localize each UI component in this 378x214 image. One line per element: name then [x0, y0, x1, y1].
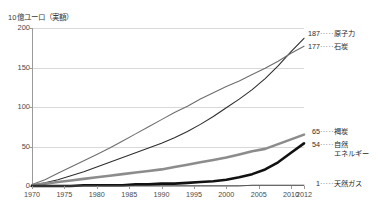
x-axis-tick-mark [194, 186, 195, 189]
y-axis-tick-label: 200 [4, 23, 30, 32]
series-line [32, 38, 304, 185]
leader-dots: ····· [320, 140, 334, 149]
x-axis-tick-mark [304, 186, 305, 189]
y-axis-tick-label: 150 [4, 63, 30, 72]
x-axis-tick-label: 2005 [251, 190, 267, 199]
series-callout: 1·····天然ガス [307, 179, 362, 188]
series-callout: 187·····原子力 [307, 29, 355, 38]
series-end-value: 187 [307, 29, 320, 38]
x-axis-tick-mark [129, 186, 130, 189]
y-axis-tick-label: 0 [4, 181, 30, 190]
x-axis-tick-label: 1975 [56, 190, 72, 199]
series-name-label: 褐炭 [334, 127, 348, 136]
x-axis-tick-mark [97, 186, 98, 189]
series-end-value: 54 [307, 140, 320, 149]
leader-dots: ····· [320, 42, 334, 51]
leader-dots: ····· [320, 179, 334, 188]
series-callout: 177·····石炭 [307, 42, 348, 51]
y-axis-tick: 200 [0, 23, 30, 33]
series-name-label: 自然エネルギー [334, 140, 369, 158]
series-end-value: 177 [307, 42, 320, 51]
x-axis-tick-mark [64, 186, 65, 189]
leader-dots: ····· [320, 127, 334, 136]
x-axis-tick-mark [162, 186, 163, 189]
series-callout: 65·····褐炭 [307, 127, 348, 136]
series-name-label: 石炭 [334, 42, 348, 51]
x-axis-tick-label: 1970 [24, 190, 40, 199]
series-name-label: 天然ガス [334, 179, 362, 188]
energy-subsidy-line-chart: 10億ユーロ（実額） 050100150200 1970197519801985… [0, 0, 378, 214]
x-axis-tick-mark [32, 186, 33, 189]
x-axis-tick-label: 2000 [218, 190, 234, 199]
x-axis-tick-label: 1980 [89, 190, 105, 199]
x-axis-tick-label: 1995 [186, 190, 202, 199]
x-axis-tick-mark [259, 186, 260, 189]
x-axis-tick-mark [291, 186, 292, 189]
x-axis-tick-label: 2012 [296, 190, 312, 199]
series-name-label: 原子力 [334, 29, 355, 38]
series-line [32, 135, 304, 186]
series-lines [32, 28, 304, 186]
series-end-value: 65 [307, 127, 320, 136]
x-axis-tick-label: 1985 [121, 190, 137, 199]
y-axis-tick: 100 [0, 102, 30, 112]
y-axis-tick-label: 100 [4, 102, 30, 111]
leader-dots: ····· [320, 29, 334, 38]
series-line [32, 46, 304, 184]
x-axis-tick-label: 1990 [154, 190, 170, 199]
y-axis-tick: 50 [0, 142, 30, 152]
y-axis-tick: 150 [0, 63, 30, 73]
y-axis-title: 10億ユーロ（実額） [8, 11, 73, 22]
series-callout: 54·····自然エネルギー [307, 140, 369, 158]
x-axis-tick-mark [226, 186, 227, 189]
y-axis-tick-label: 50 [4, 142, 30, 151]
series-end-value: 1 [307, 179, 320, 188]
